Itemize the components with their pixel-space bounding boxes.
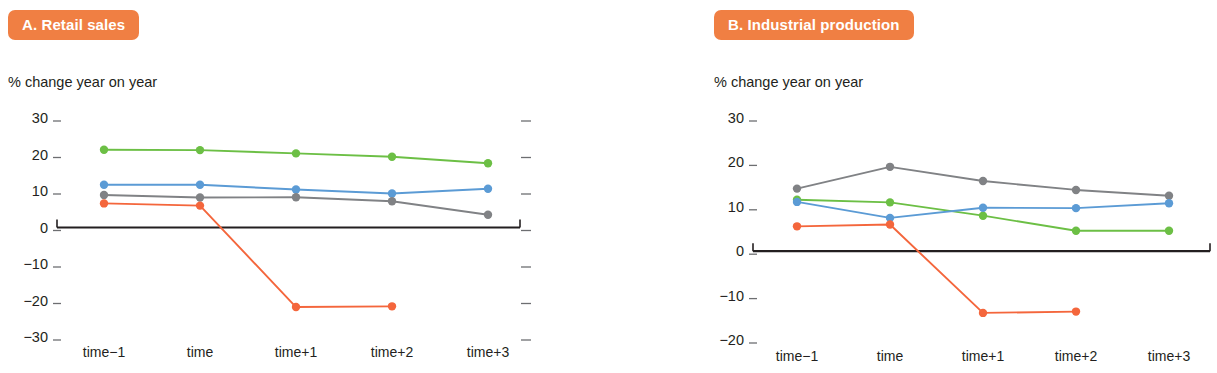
y-axis-tick-label: −10 [23, 256, 48, 272]
series-point-green [979, 211, 987, 219]
series-point-red [292, 303, 300, 311]
series-point-green [1072, 227, 1080, 235]
y-axis-tick-label: 10 [32, 183, 48, 199]
plot-area-a: 3020100−10−20−30time−1timetime+1time+2ti… [0, 0, 700, 373]
series-point-gray [1165, 192, 1173, 200]
series-line-red [104, 203, 392, 307]
series-point-red [793, 222, 801, 230]
y-axis-tick-label: −10 [719, 288, 744, 304]
y-axis-tick-label: −20 [23, 293, 48, 309]
x-axis-tick-label: time [187, 344, 214, 360]
series-point-red [979, 309, 987, 317]
series-point-green [292, 149, 300, 157]
series-point-green [388, 152, 396, 160]
series-point-blue [979, 203, 987, 211]
series-point-blue [793, 198, 801, 206]
series-point-red [1072, 307, 1080, 315]
series-point-gray [979, 177, 987, 185]
y-axis-tick-label: 0 [40, 220, 48, 236]
series-point-blue [1165, 199, 1173, 207]
plot-area-b: 3020100−10−20time−1timetime+1time+2time+… [700, 0, 1217, 373]
series-point-green [484, 159, 492, 167]
y-axis-tick-label: 20 [728, 154, 744, 170]
x-axis-tick-label: time+2 [371, 344, 414, 360]
y-axis-tick-label: −30 [23, 329, 48, 345]
x-axis-tick-label: time+1 [962, 348, 1005, 364]
series-point-gray [886, 163, 894, 171]
y-axis-tick-label: 20 [32, 147, 48, 163]
series-point-red [196, 201, 204, 209]
x-axis-tick-label: time+3 [467, 344, 510, 360]
series-point-gray [793, 184, 801, 192]
series-point-green [196, 146, 204, 154]
chart-panels: A. Retail sales % change year on year 30… [0, 0, 1217, 373]
x-axis-tick-label: time−1 [776, 348, 819, 364]
series-point-green [100, 146, 108, 154]
series-point-green [886, 198, 894, 206]
series-point-red [886, 220, 894, 228]
x-axis-tick-label: time+1 [275, 344, 318, 360]
x-axis-tick-label: time+3 [1148, 348, 1191, 364]
panel-retail-sales: A. Retail sales % change year on year 30… [0, 0, 700, 373]
series-point-blue [100, 181, 108, 189]
panel-industrial-production: B. Industrial production % change year o… [700, 0, 1217, 373]
series-point-blue [292, 185, 300, 193]
y-axis-tick-label: 0 [736, 243, 744, 259]
series-point-gray [100, 191, 108, 199]
y-axis-tick-label: 30 [32, 110, 48, 126]
series-point-blue [388, 189, 396, 197]
line-chart-a: 3020100−10−20−30time−1timetime+1time+2ti… [0, 0, 700, 373]
y-axis-tick-label: 30 [728, 110, 744, 126]
y-axis-tick-label: 10 [728, 199, 744, 215]
series-point-gray [388, 197, 396, 205]
series-point-red [388, 302, 396, 310]
series-point-gray [292, 193, 300, 201]
series-point-gray [484, 211, 492, 219]
series-line-red [797, 225, 1076, 313]
y-axis-tick-label: −20 [719, 332, 744, 348]
series-point-gray [196, 193, 204, 201]
series-point-green [1165, 227, 1173, 235]
line-chart-b: 3020100−10−20time−1timetime+1time+2time+… [700, 0, 1217, 373]
x-axis-tick-label: time+2 [1055, 348, 1098, 364]
series-point-red [100, 199, 108, 207]
x-axis-tick-label: time−1 [83, 344, 126, 360]
series-point-blue [196, 181, 204, 189]
x-axis-tick-label: time [877, 348, 904, 364]
series-point-blue [484, 185, 492, 193]
series-point-gray [1072, 186, 1080, 194]
series-point-blue [1072, 204, 1080, 212]
